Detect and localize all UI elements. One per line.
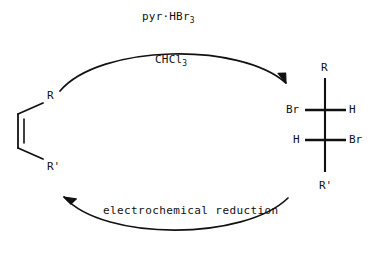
alkene-label-r: R xyxy=(47,90,54,101)
dibromide-label-c2-right-br: Br xyxy=(349,134,362,145)
forward-reagent-primary-text: pyr·HBr xyxy=(142,10,190,23)
dibromide-label-c1-left-br: Br xyxy=(286,104,299,115)
alkene-structure xyxy=(18,103,43,159)
alkene-label-rprime: R' xyxy=(47,161,60,172)
dibromide-label-r: R xyxy=(321,62,328,73)
dibromide-label-rprime: R' xyxy=(319,180,332,191)
reverse-arrowhead xyxy=(64,193,77,205)
alkene-bond-to-rprime xyxy=(18,148,43,159)
reverse-reaction-label: electrochemical reduction xyxy=(103,205,279,216)
dibromide-label-c1-right-h: H xyxy=(349,104,356,115)
forward-reagent-primary: pyr·HBr3 xyxy=(142,11,195,25)
alkene-bond-to-r xyxy=(18,103,43,114)
forward-reagent-solvent: CHCl3 xyxy=(155,54,187,68)
forward-reagent-primary-subscript: 3 xyxy=(190,16,195,25)
reaction-scheme-canvas: pyr·HBr3 CHCl3 electrochemical reduction… xyxy=(0,0,371,253)
dibromide-structure xyxy=(305,78,346,172)
forward-reagent-solvent-subscript: 3 xyxy=(182,59,187,68)
dibromide-label-c2-left-h: H xyxy=(293,134,300,145)
forward-reagent-solvent-text: CHCl xyxy=(155,53,182,66)
